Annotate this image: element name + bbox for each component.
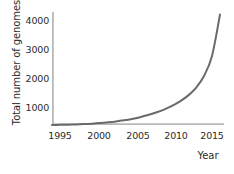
y-tick-label-4000: 4000 — [19, 15, 49, 26]
plot-area — [52, 12, 224, 125]
y-tick-label-2000: 2000 — [19, 73, 49, 84]
x-axis-tick-labels: 1995 2000 2005 2010 2015 — [0, 130, 234, 144]
x-axis-title: Year — [186, 150, 230, 161]
x-tick-label-2015: 2015 — [192, 130, 232, 141]
genome-growth-chart: Total number of genomes 4000 3000 2000 1… — [0, 0, 234, 174]
y-tick-label-3000: 3000 — [19, 44, 49, 55]
x-tick-label-2000: 2000 — [79, 130, 119, 141]
x-tick-label-2010: 2010 — [156, 130, 196, 141]
y-axis-tick-labels: 4000 3000 2000 1000 — [19, 0, 49, 174]
x-tick-label-1995: 1995 — [40, 130, 80, 141]
series-line-total-genomes — [52, 15, 220, 125]
plot-svg — [52, 12, 224, 125]
y-tick-label-1000: 1000 — [19, 102, 49, 113]
x-tick-label-2005: 2005 — [118, 130, 158, 141]
